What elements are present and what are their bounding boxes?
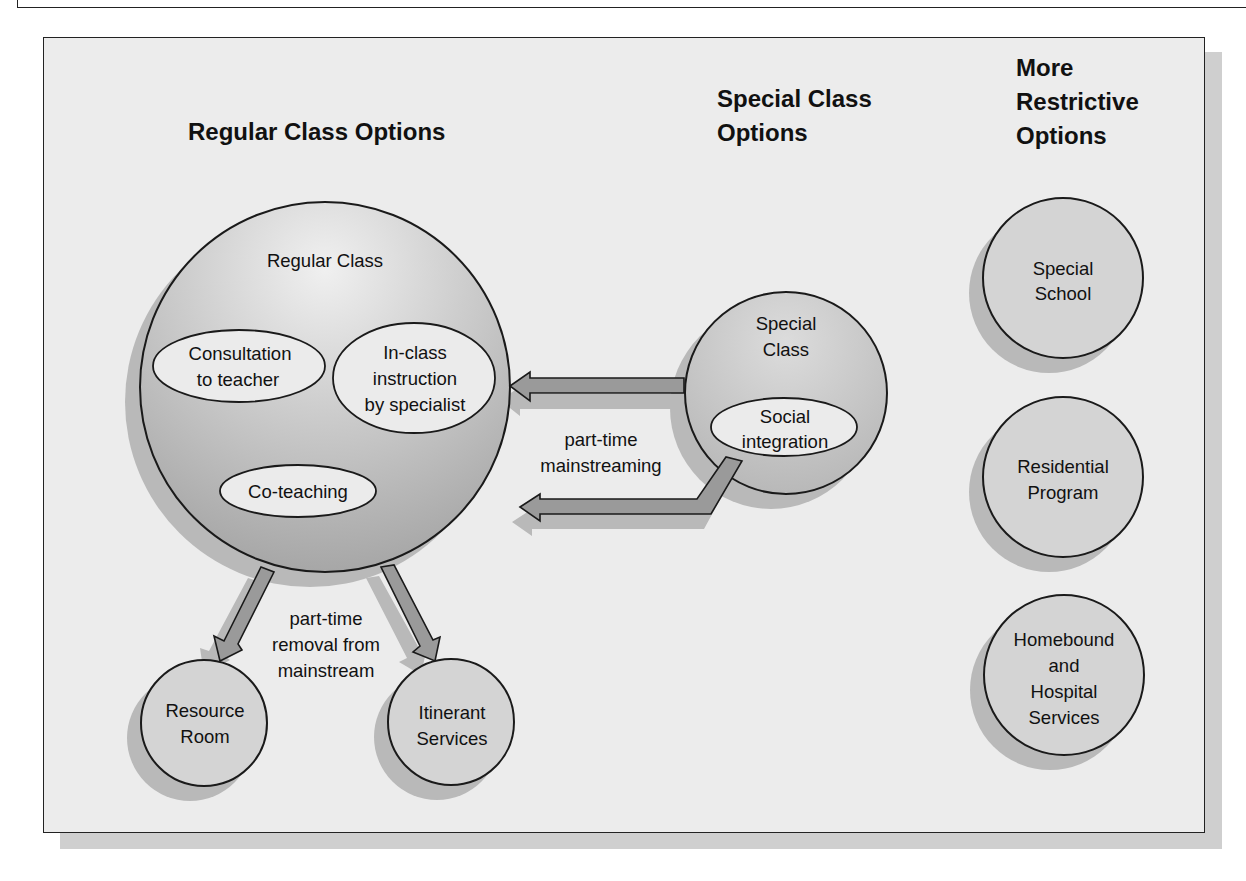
- consultation-line1: Consultation: [189, 343, 292, 364]
- social-integration-line2: integration: [742, 431, 828, 452]
- itinerant-line2: Services: [417, 728, 488, 749]
- special-class-line2: Class: [763, 339, 809, 360]
- homebound-line3: Hospital: [1031, 681, 1098, 702]
- itinerant-line1: Itinerant: [419, 702, 486, 723]
- header-restrictive-line3: Options: [1016, 122, 1107, 149]
- homebound-line1: Homebound: [1014, 629, 1115, 650]
- homebound-line2: and: [1049, 655, 1080, 676]
- in-class-line3: by specialist: [365, 394, 466, 415]
- header-regular-options: Regular Class Options: [188, 118, 445, 145]
- resource-room-line1: Resource: [165, 700, 244, 721]
- in-class-line2: instruction: [373, 368, 457, 389]
- co-teaching-label: Co-teaching: [248, 481, 348, 502]
- consultation-line2: to teacher: [197, 369, 279, 390]
- removal-label-line1: part-time: [290, 608, 363, 629]
- special-school-line2: School: [1035, 283, 1092, 304]
- in-class-line1: In-class: [383, 342, 447, 363]
- special-class-line1: Special: [756, 313, 817, 334]
- social-integration-line1: Social: [760, 406, 810, 427]
- mainstreaming-label-line1: part-time: [565, 429, 638, 450]
- regular-class-title: Regular Class: [267, 250, 383, 271]
- special-school-line1: Special: [1033, 258, 1094, 279]
- removal-label-line2: removal from: [272, 634, 380, 655]
- header-restrictive-line1: More: [1016, 54, 1073, 81]
- residential-line1: Residential: [1017, 456, 1109, 477]
- resource-room-circle: [141, 660, 267, 786]
- homebound-line4: Services: [1029, 707, 1100, 728]
- header-restrictive-line2: Restrictive: [1016, 88, 1139, 115]
- continuum-diagram: Regular Class Options Special Class Opti…: [0, 0, 1246, 881]
- resource-room-line2: Room: [180, 726, 229, 747]
- header-special-options-line2: Options: [717, 119, 808, 146]
- arrow-to-resource-room: [214, 567, 274, 661]
- ellipse-consultation: [153, 330, 325, 402]
- mainstreaming-label-line2: mainstreaming: [540, 455, 661, 476]
- residential-program-circle: [983, 397, 1143, 557]
- residential-line2: Program: [1028, 482, 1099, 503]
- header-special-options-line1: Special Class: [717, 85, 872, 112]
- removal-label-line3: mainstream: [278, 660, 375, 681]
